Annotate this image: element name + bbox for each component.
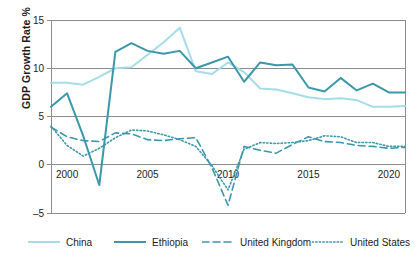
gdp-growth-rate-line-chart: GDP Growth Rate % 151050–5 2000200520102… [0, 0, 420, 258]
chart-legend: China Ethiopia United Kingdom United Sta… [28, 231, 416, 253]
svg-text:15: 15 [33, 15, 45, 26]
legend-label-united-states: United States [350, 237, 410, 248]
legend-swatch-china [28, 237, 60, 247]
legend-swatch-united-kingdom [202, 237, 234, 247]
legend-item-united-kingdom: United Kingdom [202, 237, 312, 248]
legend-swatch-ethiopia [114, 237, 146, 247]
legend-item-ethiopia: Ethiopia [114, 237, 202, 248]
svg-text:0: 0 [38, 159, 44, 170]
svg-text:–5: –5 [33, 208, 45, 219]
plot-area: 151050–5 20002005201020152020 [0, 0, 420, 258]
svg-text:2005: 2005 [136, 169, 159, 180]
legend-label-china: China [66, 237, 92, 248]
svg-text:2015: 2015 [297, 169, 320, 180]
series-line-united-states [51, 126, 405, 190]
svg-text:2020: 2020 [378, 169, 401, 180]
svg-text:5: 5 [38, 111, 44, 122]
gridlines-group [51, 20, 405, 213]
svg-text:2000: 2000 [56, 169, 79, 180]
legend-label-ethiopia: Ethiopia [152, 237, 188, 248]
legend-swatch-united-states [312, 237, 344, 247]
legend-label-united-kingdom: United Kingdom [240, 237, 311, 248]
series-line-united-kingdom [51, 127, 405, 205]
x-axis-ticks: 20002005201020152020 [51, 169, 405, 213]
legend-item-united-states: United States [312, 237, 416, 248]
svg-text:10: 10 [33, 63, 45, 74]
legend-item-china: China [28, 237, 114, 248]
series-line-ethiopia [51, 43, 405, 185]
series-line-china [51, 28, 405, 107]
y-axis-ticks: 151050–5 [33, 15, 51, 219]
